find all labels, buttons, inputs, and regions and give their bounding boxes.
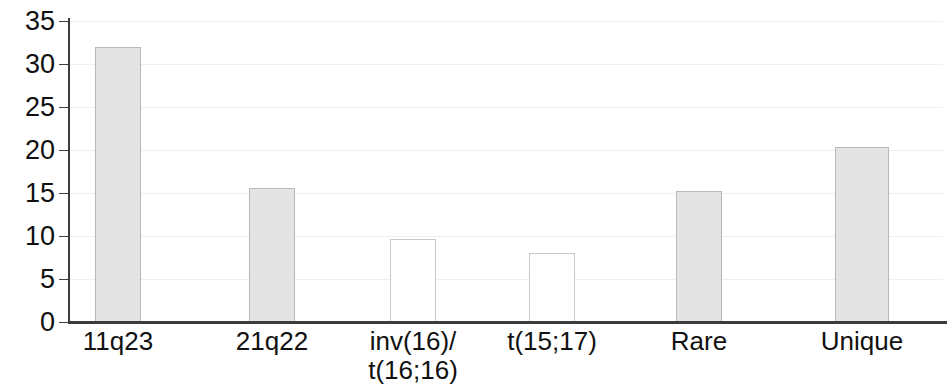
y-tick-mark (59, 322, 68, 323)
y-tick-label: 0 (40, 309, 55, 336)
y-tick-mark (59, 279, 68, 280)
y-tick-mark (59, 21, 68, 22)
bar (249, 188, 295, 322)
y-tick-mark (59, 107, 68, 108)
y-tick-mark (59, 150, 68, 151)
y-tick-label: 25 (25, 94, 55, 121)
y-axis-line (68, 18, 70, 324)
x-tick-label: 11q23 (83, 327, 153, 356)
y-tick-label: 5 (40, 266, 55, 293)
gridline (68, 107, 943, 108)
bar (835, 147, 889, 322)
y-tick-mark (59, 64, 68, 65)
x-tick-label-line: 21q22 (236, 326, 308, 356)
x-tick-label-line: t(15;17) (507, 326, 597, 356)
y-tick-mark (59, 193, 68, 194)
gridline (68, 193, 943, 194)
x-tick-label-line: 11q23 (83, 326, 153, 356)
gridline (68, 150, 943, 151)
x-tick-label-line: Rare (671, 326, 727, 356)
x-tick-label-line: Unique (821, 326, 903, 356)
y-tick-label: 20 (25, 137, 55, 164)
x-tick-label: 21q22 (236, 327, 308, 356)
bar (95, 47, 141, 322)
bar (676, 191, 722, 322)
gridline (68, 236, 943, 237)
plot-area: 05101520253035 (68, 21, 943, 322)
x-tick-label: inv(16)/t(16;16) (368, 327, 458, 385)
x-tick-label-line: t(16;16) (368, 356, 458, 385)
y-tick-label: 30 (25, 51, 55, 78)
gridline (68, 279, 943, 280)
bar (390, 239, 436, 322)
y-tick-label: 35 (25, 8, 55, 35)
y-tick-label: 10 (25, 223, 55, 250)
y-tick-label: 15 (25, 180, 55, 207)
x-axis-labels: 11q2321q22inv(16)/t(16;16)t(15;17)RareUn… (68, 325, 947, 379)
y-tick-mark (59, 236, 68, 237)
gridline (68, 64, 943, 65)
x-axis-line (68, 321, 947, 324)
bar (529, 253, 575, 322)
x-tick-label: t(15;17) (507, 327, 597, 356)
x-tick-label: Unique (821, 327, 903, 356)
x-tick-label-line: inv(16)/ (370, 326, 457, 356)
x-tick-label: Rare (671, 327, 727, 356)
gridline (68, 21, 943, 22)
